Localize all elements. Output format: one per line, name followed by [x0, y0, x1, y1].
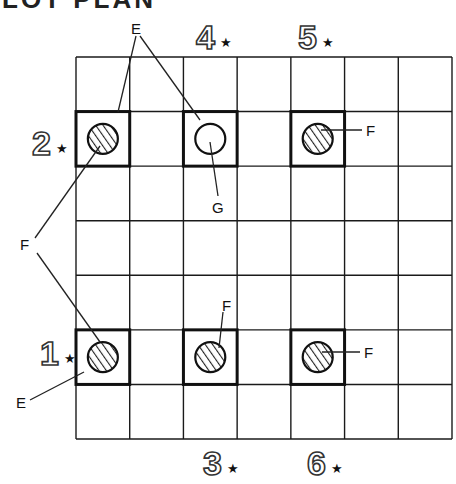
marker-number-4: 4	[196, 20, 215, 54]
marker-number-5: 5	[298, 20, 317, 54]
marker-number-6: 6	[307, 446, 326, 480]
hatched-circle-icon	[303, 124, 333, 154]
label-e-bottom: E	[16, 395, 26, 410]
hatched-circle-icon	[88, 124, 118, 154]
lot-2	[76, 112, 130, 167]
diagram: LOT PLAN 4★5★2★1	[0, 0, 456, 484]
marker-number-3: 3	[203, 446, 222, 480]
hatched-circle-icon	[195, 342, 225, 372]
star-icon: ★	[56, 142, 68, 155]
label-f-left: F	[20, 237, 29, 252]
label-f-mid-bottom: F	[222, 298, 231, 313]
lot-5	[291, 112, 345, 167]
label-e-top: E	[131, 21, 141, 36]
star-icon: ★	[331, 462, 343, 475]
star-icon: ★	[227, 462, 239, 475]
lot-4	[183, 112, 237, 167]
hatched-circle-icon	[88, 342, 118, 372]
lot-3	[183, 330, 237, 385]
label-f-right-bottom: F	[364, 345, 373, 360]
open-circle-icon	[195, 124, 225, 154]
lot-1	[76, 330, 130, 385]
grid-drawing	[0, 0, 456, 484]
label-f-right-top: F	[366, 123, 375, 138]
marker-number-1: 1	[40, 336, 59, 370]
grid-lines	[76, 57, 452, 439]
lot-boxes	[76, 112, 345, 385]
hatched-circle-icon	[303, 342, 333, 372]
marker-number-2: 2	[32, 126, 51, 160]
star-icon: ★	[322, 36, 334, 49]
star-icon: ★	[64, 352, 76, 365]
lot-6	[291, 330, 345, 385]
star-icon: ★	[220, 36, 232, 49]
label-g: G	[212, 200, 224, 215]
